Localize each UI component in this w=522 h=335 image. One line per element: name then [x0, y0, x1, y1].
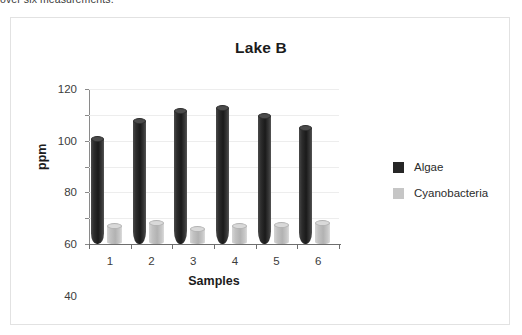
x-axis-tick-label: 3	[190, 255, 196, 267]
bar-body	[149, 223, 164, 244]
bar-cyanobacteria-1	[107, 226, 122, 244]
caption-text: over six measurements.	[0, 0, 522, 5]
bar-top-cap	[232, 223, 247, 229]
bar-top-cap	[258, 113, 271, 119]
bar-top-cap	[274, 222, 289, 228]
bar-cyanobacteria-2	[149, 223, 164, 244]
x-axis-tick	[172, 244, 173, 249]
legend-item[interactable]: Cyanobacteria	[393, 180, 488, 206]
x-axis-tick	[339, 244, 340, 249]
bar-top-cap	[107, 223, 122, 229]
plot-area: 020406080100120 123456	[89, 89, 339, 244]
x-axis-tick-label: 5	[273, 255, 279, 267]
bar-body	[216, 108, 229, 244]
y-axis-tick: 40	[85, 192, 89, 193]
x-axis-tick	[131, 244, 132, 249]
x-axis-tick-label: 6	[315, 255, 321, 267]
gridline	[89, 115, 339, 116]
bar-top-cap	[190, 226, 205, 232]
legend-swatch-icon	[393, 188, 404, 199]
gridline	[89, 89, 339, 90]
bar-body	[299, 128, 312, 244]
bar-algae-3	[174, 111, 187, 244]
x-axis-tick-label: 4	[232, 255, 238, 267]
legend-label: Algae	[414, 161, 443, 173]
bar-body	[315, 223, 330, 244]
y-axis-tick-label: 60	[64, 238, 77, 250]
y-axis-title: ppm	[35, 144, 49, 170]
bar-algae-6	[299, 128, 312, 244]
bar-body	[133, 121, 146, 244]
bar-cyanobacteria-4	[232, 226, 247, 244]
x-axis-tick	[297, 244, 298, 249]
x-axis-tick-label: 2	[148, 255, 154, 267]
y-axis-tick: 120	[85, 89, 89, 90]
bar-algae-1	[91, 139, 104, 244]
chart-legend: AlgaeCyanobacteria	[393, 154, 488, 206]
y-axis-tick-label: 80	[64, 186, 77, 198]
x-axis-tick	[89, 244, 90, 249]
bar-top-cap	[299, 125, 312, 131]
y-axis-tick: 80	[85, 141, 89, 142]
chart-figure: Lake B ppm Samples 020406080100120 12345…	[10, 17, 510, 325]
bar-cyanobacteria-5	[274, 225, 289, 244]
x-axis-title: Samples	[89, 274, 339, 288]
y-axis-tick: 20	[85, 218, 89, 219]
y-axis-tick-label: 120	[58, 83, 77, 95]
bar-algae-5	[258, 116, 271, 244]
legend-swatch-icon	[393, 162, 404, 173]
bar-body	[91, 139, 104, 244]
x-axis-line	[89, 244, 341, 245]
bar-cyanobacteria-3	[190, 229, 205, 245]
legend-item[interactable]: Algae	[393, 154, 488, 180]
bar-cyanobacteria-6	[315, 223, 330, 244]
chart-title: Lake B	[11, 39, 511, 57]
clipped-caption: over six measurements.	[0, 0, 522, 9]
x-axis-tick	[214, 244, 215, 249]
bar-algae-4	[216, 108, 229, 244]
legend-label: Cyanobacteria	[414, 187, 488, 199]
bar-algae-2	[133, 121, 146, 244]
y-axis-tick: 100	[85, 115, 89, 116]
x-axis-tick-label: 1	[107, 255, 113, 267]
x-axis-tick	[256, 244, 257, 249]
y-axis-tick-label: 40	[64, 290, 77, 302]
bar-body	[258, 116, 271, 244]
y-axis-tick-label: 100	[58, 135, 77, 147]
bar-body	[174, 111, 187, 244]
y-axis-tick: 60	[85, 167, 89, 168]
